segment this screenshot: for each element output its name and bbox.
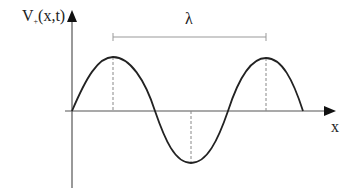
y-axis-label: V+(x,t)	[22, 7, 65, 26]
y-axis-arrow-icon	[67, 10, 77, 22]
x-axis-label: x	[331, 118, 339, 135]
wavelength-label: λ	[185, 10, 193, 27]
x-axis-arrow-icon	[324, 106, 336, 116]
wave-diagram: V+(x,t) λ x	[0, 0, 358, 196]
sine-curve	[72, 57, 303, 163]
